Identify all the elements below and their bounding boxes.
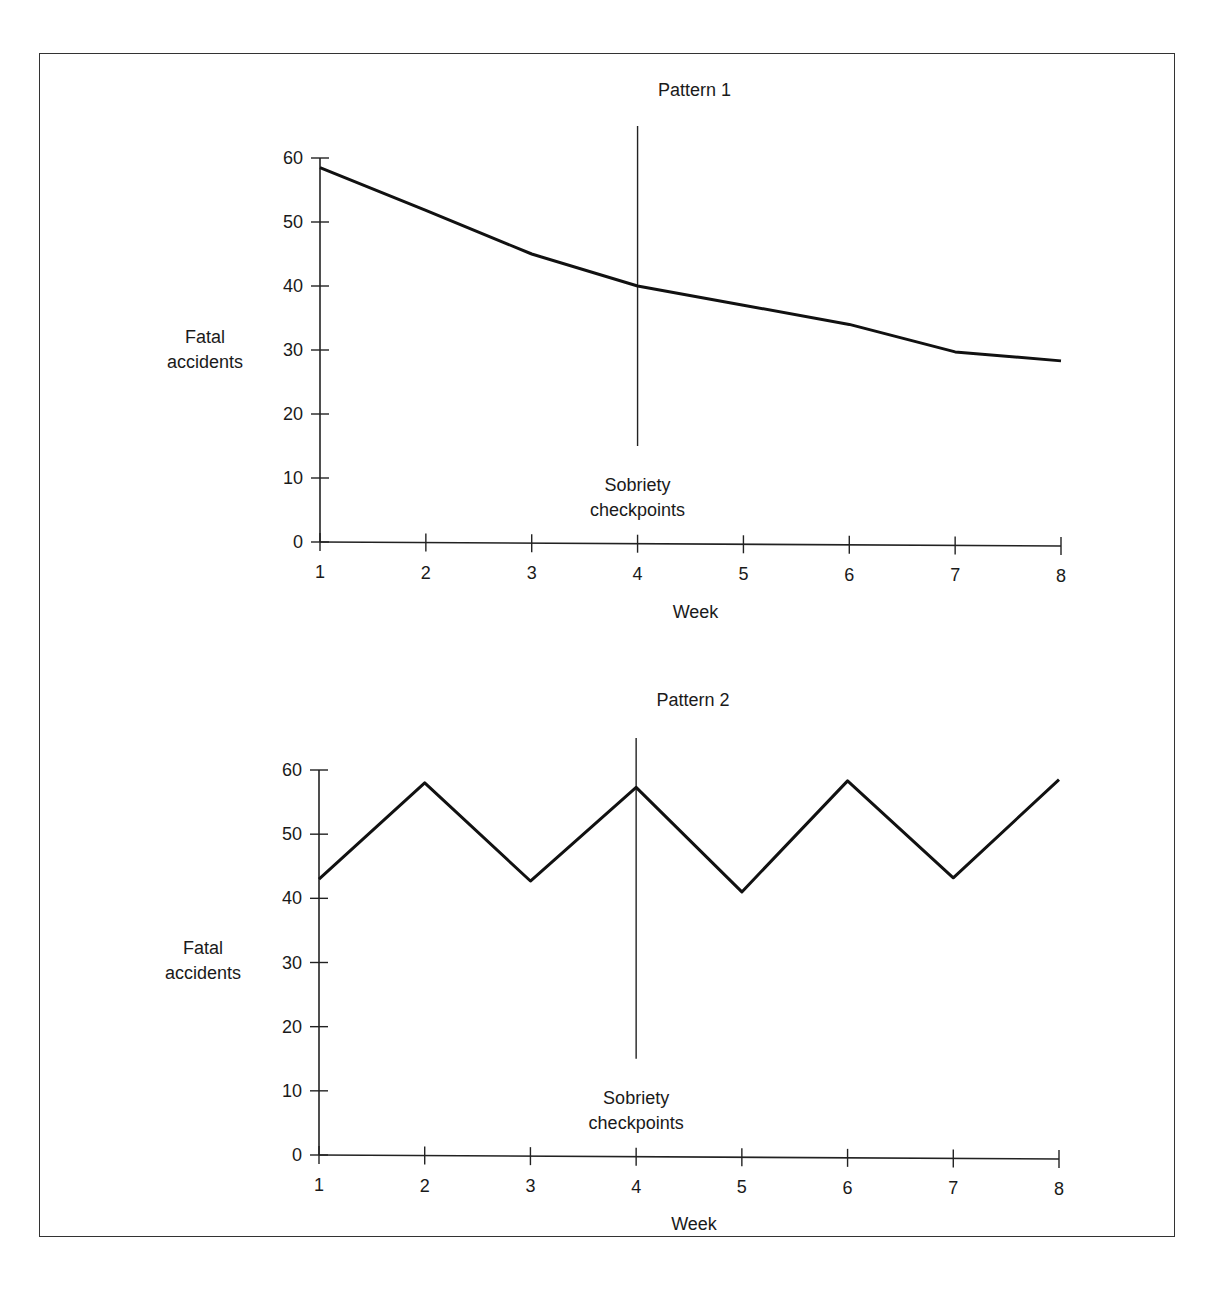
- y-axis-label: Fatal: [185, 327, 225, 347]
- x-tick-label: 3: [525, 1176, 535, 1196]
- x-tick-label: 8: [1054, 1179, 1064, 1199]
- y-tick-label: 40: [282, 888, 302, 908]
- y-tick-label: 0: [293, 532, 303, 552]
- x-axis: [320, 542, 1061, 546]
- x-tick-label: 8: [1056, 566, 1066, 586]
- y-tick-label: 50: [282, 824, 302, 844]
- y-tick-label: 30: [283, 340, 303, 360]
- y-axis-label: accidents: [167, 352, 243, 372]
- x-tick-label: 6: [844, 565, 854, 585]
- annotation-label: checkpoints: [590, 500, 685, 520]
- x-tick-label: 5: [738, 564, 748, 584]
- charts-canvas: Pattern 1010203040506012345678WeekFatala…: [0, 0, 1217, 1291]
- x-axis-label: Week: [671, 1214, 718, 1234]
- y-tick-label: 60: [282, 760, 302, 780]
- annotation-label: Sobriety: [605, 475, 671, 495]
- y-tick-label: 40: [283, 276, 303, 296]
- x-tick-label: 7: [948, 1178, 958, 1198]
- x-tick-label: 4: [631, 1177, 641, 1197]
- y-tick-label: 20: [283, 404, 303, 424]
- x-tick-label: 2: [421, 563, 431, 583]
- chart-title: Pattern 1: [658, 80, 731, 100]
- y-tick-label: 60: [283, 148, 303, 168]
- y-tick-label: 50: [283, 212, 303, 232]
- y-tick-label: 30: [282, 953, 302, 973]
- x-tick-label: 5: [737, 1177, 747, 1197]
- y-tick-label: 10: [283, 468, 303, 488]
- y-axis-label: accidents: [165, 963, 241, 983]
- y-tick-label: 0: [292, 1145, 302, 1165]
- data-series-line: [319, 780, 1059, 892]
- annotation-label: checkpoints: [589, 1113, 684, 1133]
- data-series-line: [320, 168, 1061, 361]
- x-tick-label: 1: [315, 562, 325, 582]
- y-tick-label: 10: [282, 1081, 302, 1101]
- x-axis: [319, 1155, 1059, 1159]
- chart-pattern-2: Pattern 2010203040506012345678WeekFatala…: [165, 690, 1064, 1234]
- x-tick-label: 3: [527, 563, 537, 583]
- x-tick-label: 6: [843, 1178, 853, 1198]
- x-tick-label: 7: [950, 565, 960, 585]
- annotation-label: Sobriety: [603, 1088, 669, 1108]
- chart-title: Pattern 2: [656, 690, 729, 710]
- x-tick-label: 1: [314, 1175, 324, 1195]
- x-axis-label: Week: [673, 602, 720, 622]
- chart-pattern-1: Pattern 1010203040506012345678WeekFatala…: [167, 80, 1066, 622]
- x-tick-label: 2: [420, 1176, 430, 1196]
- y-tick-label: 20: [282, 1017, 302, 1037]
- x-tick-label: 4: [633, 564, 643, 584]
- y-axis-label: Fatal: [183, 938, 223, 958]
